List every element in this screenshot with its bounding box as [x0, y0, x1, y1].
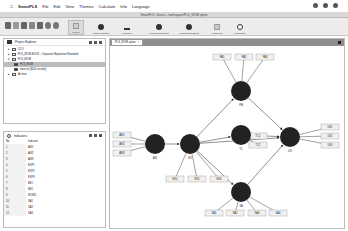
loading-EX4[interactable] — [175, 153, 186, 179]
indicator-label: AW1 — [119, 133, 125, 137]
project-explorer-header: Project Explorer — [4, 39, 105, 46]
cursor-icon — [73, 23, 79, 29]
indicator-box[interactable]: SA3 — [248, 210, 266, 216]
indicator-label: PA3 — [263, 55, 268, 59]
indicator-box[interactable]: PA3 — [256, 54, 274, 60]
construct-label: TC — [239, 147, 243, 151]
construct-EX[interactable] — [180, 134, 200, 154]
project-explorer-panel: Project Explorer ▸CCO ▸PLS_WOM-BOOK - Co… — [3, 38, 106, 124]
construct-label: US — [288, 149, 292, 153]
construct-SA[interactable] — [231, 182, 251, 202]
new-icon[interactable] — [13, 22, 19, 29]
left-sidebar: Project Explorer ▸CCO ▸PLS_WOM-BOOK - Co… — [3, 38, 106, 228]
menu-icon[interactable] — [99, 41, 102, 44]
moderating-effect-button-2[interactable]: Moderating Effect — [174, 20, 204, 35]
menu-view[interactable]: View — [65, 4, 74, 9]
person-icon — [156, 24, 162, 30]
indicator-label: PA1 — [220, 55, 225, 59]
indicator-label: SA3 — [255, 211, 260, 215]
maximize-icon[interactable] — [338, 41, 341, 44]
tab-model[interactable]: PLS_WOM.splsm × — [111, 39, 143, 46]
loading-EX6[interactable] — [196, 152, 219, 179]
expand-icon[interactable] — [94, 41, 97, 44]
menu-calculate[interactable]: Calculate — [99, 4, 116, 9]
construct-AW[interactable] — [145, 134, 165, 154]
indicator-box[interactable]: SA1 — [205, 210, 223, 216]
status-icon[interactable] — [323, 3, 328, 8]
model-editor: PLS_WOM.splsm × AW1AW2AW3EX4EX5EX6PA1PA2… — [109, 38, 345, 229]
indicator-label: US3 — [327, 143, 333, 147]
menu-edit[interactable]: Edit — [54, 4, 61, 9]
path-EX-PA[interactable] — [197, 99, 233, 137]
zoom-out-icon[interactable] — [53, 22, 59, 29]
select-button[interactable]: Select — [68, 20, 84, 35]
loading-EX5[interactable] — [192, 154, 197, 179]
indicator-box[interactable]: TC2 — [249, 142, 267, 148]
indicator-box[interactable]: US1 — [321, 124, 339, 130]
menu-app-name[interactable]: SmartPLS — [18, 4, 37, 9]
filter-icon[interactable] — [99, 134, 102, 137]
construct-PA[interactable] — [231, 81, 251, 101]
indicator-box[interactable]: TC1 — [249, 133, 267, 139]
tree-item[interactable]: ▸Archive — [4, 72, 105, 77]
save-icon[interactable] — [5, 22, 11, 29]
user-icon[interactable] — [21, 22, 27, 29]
connect-button[interactable]: Connect — [118, 20, 136, 35]
menu-file[interactable]: File — [42, 4, 48, 9]
indicator-name: SA3 — [26, 210, 105, 216]
data-icon — [14, 68, 18, 71]
indicator-label: EX4 — [173, 177, 178, 181]
menu-themes[interactable]: Themes — [79, 4, 93, 9]
folder-icon — [12, 53, 16, 56]
path-PA-US[interactable] — [248, 98, 282, 130]
indicator-box[interactable]: EX5 — [188, 176, 206, 182]
indicator-label: TC2 — [256, 143, 261, 147]
indicator-label: SA2 — [233, 211, 238, 215]
undo-icon[interactable] — [29, 22, 35, 29]
indicator-box[interactable]: AW3 — [113, 150, 131, 156]
note-icon — [214, 24, 220, 30]
menu-language[interactable]: Language — [132, 4, 150, 9]
construct-TC[interactable] — [231, 125, 251, 145]
indicators-header: Indicators — [4, 132, 105, 139]
latent-variable-button[interactable]: Latent Variable — [88, 20, 114, 35]
redo-icon[interactable] — [37, 22, 43, 29]
indicator-box[interactable]: PA1 — [213, 54, 231, 60]
list-icon[interactable] — [333, 3, 338, 8]
moderating-effect-button-1[interactable]: Moderating Effect — [144, 20, 174, 35]
indicator-box[interactable]: US3 — [321, 142, 339, 148]
collapse-icon[interactable] — [89, 41, 92, 44]
indicator-box[interactable]: EX6 — [210, 176, 228, 182]
indicator-box[interactable]: AW2 — [113, 141, 131, 147]
arrow-icon — [124, 28, 130, 30]
loading-PA1[interactable] — [222, 57, 236, 82]
indicator-label: SA4 — [276, 211, 281, 215]
indicator-box[interactable]: PA2 — [235, 54, 253, 60]
filter-icon[interactable] — [89, 134, 92, 137]
construct-US[interactable] — [280, 127, 300, 147]
indicator-row[interactable]: 12SA3 — [4, 210, 105, 216]
menu-info[interactable]: Info — [120, 4, 127, 9]
indicator-label: PA2 — [242, 55, 247, 59]
loading-PA3[interactable] — [247, 57, 265, 83]
indicators-panel: Indicators No. Indicator 1AW12AW23AW34EX… — [3, 131, 106, 228]
indicator-box[interactable]: AW1 — [113, 132, 131, 138]
circle-icon — [98, 24, 104, 30]
project-tree: ▸CCO ▸PLS_WOM-BOOK - Corporate Reputatio… — [4, 46, 105, 77]
indicator-box[interactable]: SA2 — [226, 210, 244, 216]
search-icon[interactable] — [313, 3, 318, 8]
zoom-in-icon[interactable] — [45, 22, 51, 29]
path-SA-US[interactable] — [248, 145, 283, 184]
indicator-box[interactable]: EX4 — [166, 176, 184, 182]
folder-icon — [12, 48, 16, 51]
comment-button[interactable]: Comment — [207, 20, 227, 35]
indicator-box[interactable]: US2 — [321, 133, 339, 139]
indicator-label: US2 — [327, 134, 333, 138]
filter-icon[interactable] — [94, 134, 97, 137]
calculate-button[interactable]: Calculate — [230, 20, 250, 35]
construct-label: PA — [239, 103, 243, 107]
loading-PA2[interactable] — [242, 57, 244, 81]
apple-menu-icon[interactable]:  — [10, 4, 13, 9]
indicator-box[interactable]: SA4 — [269, 210, 287, 216]
close-icon[interactable]: × — [137, 41, 139, 44]
